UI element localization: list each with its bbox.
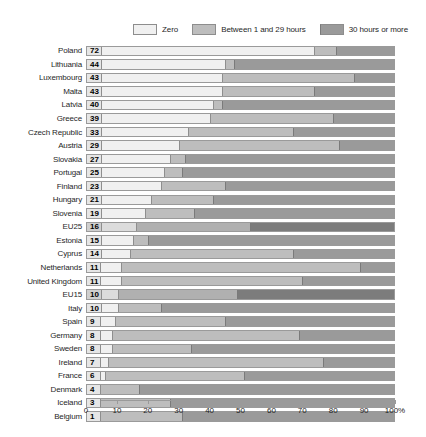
x-axis-tick	[117, 400, 118, 404]
bar-segment-mid	[213, 101, 222, 110]
bar-track: 15	[86, 235, 395, 246]
bar-track: 6	[86, 371, 395, 382]
bar-row: EU2516	[0, 220, 426, 234]
bar-row: Spain9	[0, 315, 426, 329]
bar-value-label: 27	[87, 155, 102, 164]
x-axis-tick	[395, 400, 396, 404]
bar-segment-mid	[170, 155, 185, 164]
x-axis-tick-label: 50	[236, 406, 245, 415]
bar-track: 27	[86, 154, 395, 165]
bar-segment-high	[185, 155, 394, 164]
bar-segment-high	[225, 182, 394, 191]
bar-segment-high	[333, 114, 394, 123]
legend-item-between-1-and-29-hours: Between 1 and 29 hours	[192, 24, 306, 35]
bar-row-label: Germany	[0, 331, 86, 340]
bar-segment-mid	[222, 74, 354, 83]
bar-row-label: Greece	[0, 114, 86, 123]
bar-segment-zero	[87, 74, 222, 83]
bar-row: Finland23	[0, 179, 426, 193]
bar-segment-mid	[161, 182, 225, 191]
bar-segment-mid	[188, 128, 292, 137]
bar-row-label: Luxembourg	[0, 73, 86, 82]
bar-row-label: Sweden	[0, 344, 86, 353]
bar-row-label: Hungary	[0, 195, 86, 204]
bar-track: 8	[86, 330, 395, 341]
bar-value-label: 29	[87, 141, 102, 150]
bar-segment-mid	[108, 358, 323, 367]
bar-row: Greece39	[0, 112, 426, 126]
bar-value-label: 39	[87, 114, 102, 123]
bar-segment-high	[244, 372, 394, 381]
bar-row: Denmark4	[0, 383, 426, 397]
bar-segment-mid	[118, 290, 238, 299]
bar-row: France6	[0, 369, 426, 383]
bar-segment-mid	[121, 263, 360, 272]
bar-segment-high	[182, 168, 394, 177]
bar-segment-mid	[210, 114, 333, 123]
bar-segment-zero	[87, 128, 188, 137]
bar-row-label: Finland	[0, 182, 86, 191]
bar-value-label: 43	[87, 87, 102, 96]
bar-row-label: Estonia	[0, 236, 86, 245]
bar-value-label: 10	[87, 304, 102, 313]
bar-track: 11	[86, 276, 395, 287]
bar-segment-high	[336, 47, 394, 56]
x-axis-tick-label: 90	[360, 406, 369, 415]
bar-value-label: 21	[87, 196, 102, 205]
x-axis-tick-label: 30	[174, 406, 183, 415]
bar-segment-mid	[118, 304, 161, 313]
bar-segment-high	[148, 236, 394, 245]
bar-segment-high	[302, 277, 394, 286]
x-axis-tick-label: 60	[267, 406, 276, 415]
bar-track: 39	[86, 113, 395, 124]
legend-swatch-between-1-and-29-hours	[192, 24, 216, 35]
bar-segment-mid	[222, 87, 314, 96]
bar-segment-high	[323, 358, 394, 367]
bar-segment-mid	[179, 141, 339, 150]
bar-segment-mid	[121, 277, 302, 286]
bar-row: Ireland7	[0, 356, 426, 370]
bar-segment-mid	[151, 196, 212, 205]
bar-segment-high	[161, 304, 394, 313]
bar-value-label: 8	[87, 331, 101, 340]
bar-value-label: 4	[87, 385, 101, 394]
legend-item-30-hours-or-more: 30 hours or more	[320, 24, 408, 35]
bar-segment-zero	[87, 101, 213, 110]
bar-track: 23	[86, 181, 395, 192]
x-axis-tick-label: 10	[112, 406, 121, 415]
bar-track: 72	[86, 46, 395, 57]
legend-label-zero: Zero	[162, 25, 178, 34]
bar-row: Italy10	[0, 301, 426, 315]
bar-row-label: Ireland	[0, 358, 86, 367]
bar-segment-mid	[145, 209, 194, 218]
bar-track: 14	[86, 249, 395, 260]
bar-row: Portugal25	[0, 166, 426, 180]
chart-legend: Zero Between 1 and 29 hours 30 hours or …	[0, 20, 426, 38]
bar-row: Slovenia19	[0, 207, 426, 221]
bar-track: 43	[86, 86, 395, 97]
bar-row-label: Latvia	[0, 100, 86, 109]
bar-row: Germany8	[0, 328, 426, 342]
bar-row: Slovakia27	[0, 152, 426, 166]
bar-track: 7	[86, 357, 395, 368]
bar-row-label: Austria	[0, 141, 86, 150]
bar-row: Sweden8	[0, 342, 426, 356]
bar-row: Poland72	[0, 44, 426, 58]
bar-row-label: Lithuania	[0, 60, 86, 69]
x-axis-tick-label: 40	[205, 406, 214, 415]
bar-segment-mid	[99, 385, 139, 394]
bar-segment-high	[360, 263, 394, 272]
bar-segment-mid	[133, 236, 148, 245]
bar-segment-high	[314, 87, 394, 96]
bar-row: Czech Republic33	[0, 125, 426, 139]
bar-segment-high	[354, 74, 394, 83]
bar-track: 21	[86, 195, 395, 206]
x-axis-tick	[271, 400, 272, 404]
x-axis-tick-label: 100%	[385, 406, 405, 415]
bar-row-label: France	[0, 371, 86, 380]
bar-row: Luxembourg43	[0, 71, 426, 85]
bar-value-label: 8	[87, 345, 101, 354]
bar-row: Latvia40	[0, 98, 426, 112]
legend-label-30-hours-or-more: 30 hours or more	[349, 25, 408, 34]
bar-value-label: 6	[87, 372, 101, 381]
